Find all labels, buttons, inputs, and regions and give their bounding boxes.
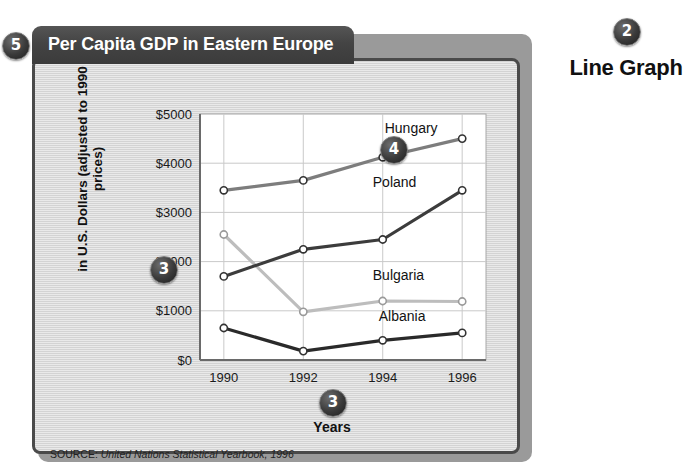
- annotation-badge-3-bottom: 3: [319, 389, 347, 417]
- data-point-marker: [459, 135, 466, 142]
- line-graph-caption: Line Graph: [556, 55, 696, 81]
- annotation-badge-4: 4: [380, 136, 408, 164]
- x-tick-label: 1994: [368, 370, 397, 385]
- plot-background: [200, 114, 486, 360]
- series-label-hungary: Hungary: [385, 120, 438, 136]
- x-tick-label: 1992: [289, 370, 318, 385]
- annotation-badge-2: 2: [613, 18, 641, 46]
- x-tick-label: 1990: [209, 370, 238, 385]
- data-point-marker: [459, 187, 466, 194]
- figure-card: Per Capita GDP in Eastern Europe in U.S.…: [32, 26, 526, 458]
- plot-area: $0$1000$2000$3000$4000$50001990199219941…: [140, 108, 490, 408]
- y-tick-label: $3000: [156, 205, 192, 220]
- source-reference: United Nations Statistical Yearbook, 199…: [101, 448, 294, 460]
- data-point-marker: [459, 329, 466, 336]
- data-point-marker: [379, 337, 386, 344]
- data-point-marker: [459, 298, 466, 305]
- y-tick-label: $1000: [156, 303, 192, 318]
- data-point-marker: [220, 231, 227, 238]
- x-axis-title: Years: [172, 419, 492, 435]
- data-point-marker: [220, 187, 227, 194]
- x-tick-label: 1996: [448, 370, 477, 385]
- y-axis-title: in U.S. Dollars (adjusted to 1990 prices…: [75, 49, 105, 289]
- data-point-marker: [379, 297, 386, 304]
- annotation-badge-5: 5: [2, 32, 30, 60]
- series-label-albania: Albania: [379, 308, 426, 324]
- source-label: SOURCE:: [50, 448, 98, 460]
- line-chart-svg: $0$1000$2000$3000$4000$50001990199219941…: [140, 108, 490, 408]
- data-point-marker: [220, 324, 227, 331]
- source-note: SOURCE: United Nations Statistical Yearb…: [50, 448, 294, 460]
- annotation-badge-3-left: 3: [150, 256, 178, 284]
- data-point-marker: [379, 236, 386, 243]
- data-point-marker: [300, 177, 307, 184]
- y-tick-label: $5000: [156, 108, 192, 122]
- data-point-marker: [300, 348, 307, 355]
- data-point-marker: [300, 308, 307, 315]
- y-tick-label: $0: [178, 353, 192, 368]
- data-point-marker: [300, 246, 307, 253]
- series-label-poland: Poland: [373, 174, 417, 190]
- y-tick-label: $4000: [156, 156, 192, 171]
- series-label-bulgaria: Bulgaria: [373, 267, 425, 283]
- data-point-marker: [220, 273, 227, 280]
